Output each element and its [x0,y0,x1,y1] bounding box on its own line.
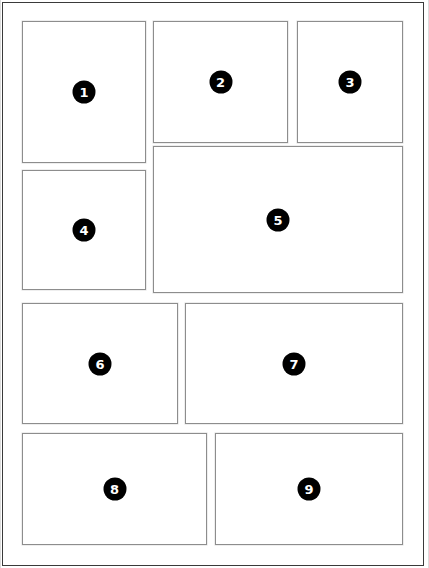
scan-edge-left [0,0,1,568]
wireframe-page: 123456789 [0,0,429,568]
box-number-badge: 8 [103,478,126,501]
box-number-badge: 3 [339,71,362,94]
box-number-badge: 7 [283,352,306,375]
box-number-badge: 4 [73,219,96,242]
box-number-badge: 1 [73,81,96,104]
wireframe-box-9[interactable]: 9 [215,433,403,545]
wireframe-box-2[interactable]: 2 [153,21,288,143]
wireframe-box-4[interactable]: 4 [22,170,146,290]
wireframe-box-3[interactable]: 3 [297,21,403,143]
wireframe-box-6[interactable]: 6 [22,303,178,424]
box-number-badge: 6 [89,352,112,375]
wireframe-box-5[interactable]: 5 [153,146,403,293]
wireframe-box-1[interactable]: 1 [22,21,146,163]
box-number-badge: 2 [209,71,232,94]
wireframe-box-7[interactable]: 7 [185,303,403,424]
box-number-badge: 5 [267,208,290,231]
box-number-badge: 9 [298,478,321,501]
wireframe-box-8[interactable]: 8 [22,433,207,545]
